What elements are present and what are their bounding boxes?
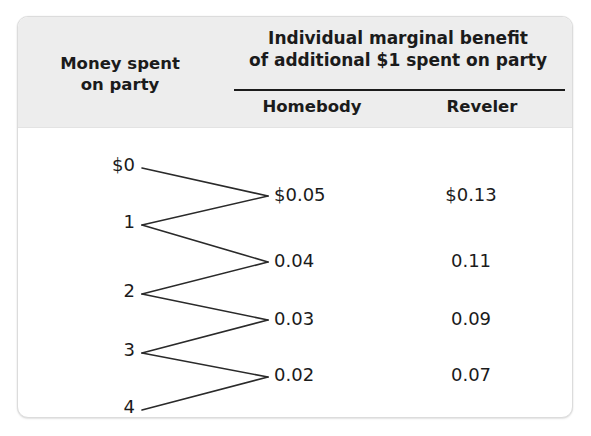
bracket-line-1-up — [142, 196, 268, 225]
column-group-header: Individual marginal benefit of additiona… — [222, 27, 573, 71]
bracket-line-1-down — [142, 225, 268, 262]
row-header-line-2: on party — [18, 74, 222, 95]
reveler-value-3: 0.07 — [396, 364, 546, 386]
reveler-value-1: 0.11 — [396, 250, 546, 272]
bracket-line-0-down — [142, 168, 268, 196]
column-header-reveler: Reveler — [398, 96, 566, 118]
money-label-4: 4 — [23, 396, 135, 418]
money-label-0: $0 — [23, 154, 135, 176]
figure-root: · · · · · · · · · · Money spent on party… — [0, 0, 591, 436]
bracket-line-3-up — [142, 320, 268, 353]
reveler-value-0: $0.13 — [396, 184, 546, 206]
bracket-line-4-up — [142, 377, 268, 410]
clipped-caption-sliver: · · · · · · · · · · — [0, 0, 591, 12]
bracket-line-2-down — [142, 294, 268, 320]
homebody-value-1: 0.04 — [274, 250, 404, 272]
money-label-1: 1 — [23, 211, 135, 233]
money-label-3: 3 — [23, 339, 135, 361]
money-label-2: 2 — [23, 280, 135, 302]
homebody-value-3: 0.02 — [274, 364, 404, 386]
homebody-value-2: 0.03 — [274, 308, 404, 330]
column-header-homebody: Homebody — [226, 96, 398, 118]
homebody-value-0: $0.05 — [274, 184, 404, 206]
row-header-line-1: Money spent — [18, 53, 222, 74]
table-body: $0 1 2 3 4 $0.05 0.04 0.03 0.02 $0.13 0.… — [18, 128, 572, 418]
bracket-line-2-up — [142, 262, 268, 294]
column-group-header-line-2: of additional $1 spent on party — [222, 49, 573, 71]
row-header-money-spent: Money spent on party — [18, 53, 222, 95]
column-group-rule — [234, 89, 565, 91]
marginal-benefit-table-card: Money spent on party Individual marginal… — [17, 16, 573, 418]
bracket-line-3-down — [142, 353, 268, 377]
clipped-caption-text: · · · · · · · · · · — [255, 0, 335, 2]
table-header: Money spent on party Individual marginal… — [18, 17, 572, 128]
column-group-header-line-1: Individual marginal benefit — [222, 27, 573, 49]
reveler-value-2: 0.09 — [396, 308, 546, 330]
